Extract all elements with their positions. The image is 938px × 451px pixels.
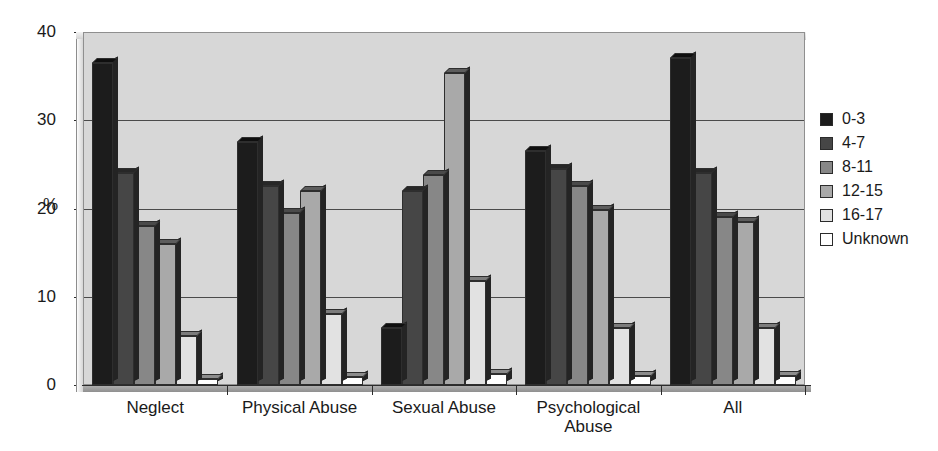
bar-top-face (300, 186, 326, 191)
bar (381, 328, 402, 385)
legend-item[interactable]: 0-3 (820, 107, 936, 131)
bar-side-face (588, 180, 593, 381)
bar-group (381, 32, 507, 385)
bar-side-face (342, 308, 347, 381)
bar-side-face (134, 167, 139, 381)
x-category-label: All (661, 398, 805, 417)
bar-side-face (300, 206, 305, 381)
bar-side-face (423, 184, 428, 381)
bar-group (525, 32, 651, 385)
bar-side-face (546, 145, 551, 381)
y-tick-label: 30 (14, 111, 56, 128)
bar-side-face (197, 329, 202, 381)
bar-side-face (609, 204, 614, 381)
bar-side-face (279, 180, 284, 381)
bar-front-face (92, 63, 113, 385)
bar-side-face (733, 211, 738, 381)
legend-item[interactable]: 8-11 (820, 155, 936, 179)
y-tick-label: 10 (14, 288, 56, 305)
bar-group (92, 32, 218, 385)
x-tick-mark (372, 386, 373, 395)
bar-side-face (486, 274, 491, 381)
legend-label: 16-17 (842, 207, 883, 223)
bar-front-face (525, 151, 546, 385)
legend-swatch (820, 161, 833, 174)
legend-swatch (820, 233, 833, 246)
x-category-label: Neglect (83, 398, 227, 417)
bar-side-face (176, 237, 181, 381)
legend-label: 12-15 (842, 183, 883, 199)
y-tick-label: 40 (14, 23, 56, 40)
legend-swatch (820, 209, 833, 222)
x-category-label-line: Psychological (516, 398, 660, 417)
bar-front-face (670, 58, 691, 385)
chart-legend: 0-34-78-1112-1516-17Unknown (820, 107, 936, 251)
legend-item[interactable]: Unknown (820, 227, 936, 251)
legend-swatch (820, 185, 833, 198)
bar-group (670, 32, 796, 385)
bar (525, 151, 546, 385)
x-tick-mark (227, 386, 228, 395)
bar-side-face (444, 169, 449, 381)
bar (670, 58, 691, 385)
bar-side-face (630, 321, 635, 381)
plot-area (83, 32, 805, 385)
bar-side-face (691, 52, 696, 381)
x-tick-mark (516, 386, 517, 395)
bar-side-face (402, 321, 407, 381)
legend-item[interactable]: 4-7 (820, 131, 936, 155)
bar-side-face (321, 184, 326, 381)
plot-floor (83, 385, 811, 392)
legend-swatch (820, 137, 833, 150)
legend-swatch (820, 113, 833, 126)
x-category-label: Sexual Abuse (372, 398, 516, 417)
legend-label: 4-7 (842, 135, 865, 151)
x-category-label-line: Neglect (83, 398, 227, 417)
legend-label: 0-3 (842, 111, 865, 127)
x-tick-mark (805, 386, 806, 395)
bar (92, 63, 113, 385)
y-tick-label: 20 (14, 200, 56, 217)
x-category-label: Physical Abuse (227, 398, 371, 417)
legend-label: Unknown (842, 231, 909, 247)
bar-front-face (381, 328, 402, 385)
bar-group (237, 32, 363, 385)
bar (237, 142, 258, 385)
bar-side-face (155, 220, 160, 381)
bar-side-face (567, 162, 572, 381)
bar-side-face (775, 321, 780, 381)
bar-chart: % 403020100 NeglectPhysical AbuseSexual … (0, 0, 938, 451)
bar-side-face (258, 136, 263, 381)
bar-side-face (113, 56, 118, 381)
x-category-label-line: Abuse (516, 417, 660, 436)
x-axis-line (82, 385, 811, 386)
x-tick-mark (661, 386, 662, 395)
legend-item[interactable]: 12-15 (820, 179, 936, 203)
y-tick-label: 0 (14, 376, 56, 393)
x-category-label-line: Sexual Abuse (372, 398, 516, 417)
x-category-label: PsychologicalAbuse (516, 398, 660, 436)
bar-side-face (712, 167, 717, 381)
bar-side-face (465, 67, 470, 381)
legend-label: 8-11 (842, 159, 873, 175)
legend-item[interactable]: 16-17 (820, 203, 936, 227)
x-category-label-line: Physical Abuse (227, 398, 371, 417)
x-category-label-line: All (661, 398, 805, 417)
bar-front-face (237, 142, 258, 385)
bar-side-face (754, 215, 759, 381)
